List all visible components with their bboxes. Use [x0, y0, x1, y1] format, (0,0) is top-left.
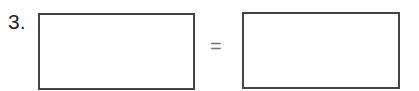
right-answer-box[interactable] [242, 12, 400, 89]
left-answer-box[interactable] [38, 13, 195, 90]
problem-number: 3. [8, 10, 26, 34]
equals-sign: = [210, 35, 222, 58]
